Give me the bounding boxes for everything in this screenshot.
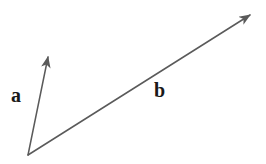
vector-a-arrow — [28, 57, 48, 155]
vector-b-label: b — [154, 80, 165, 100]
vector-diagram-canvas: a b — [0, 0, 266, 164]
vector-diagram-svg — [0, 0, 266, 164]
vector-b-arrow — [28, 15, 250, 155]
vector-a-label: a — [11, 85, 21, 105]
